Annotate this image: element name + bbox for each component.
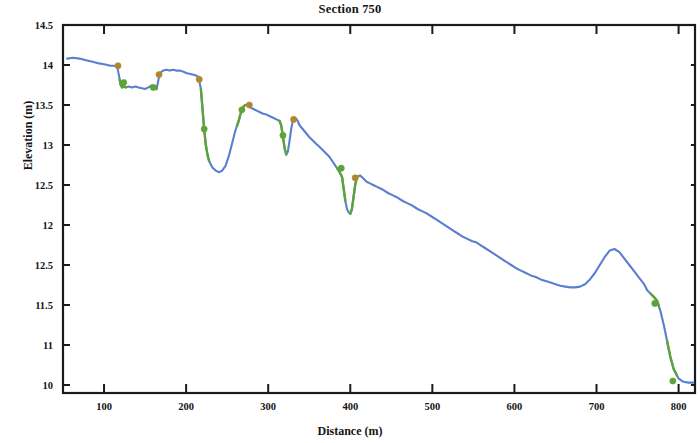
y-axis-ticks: 14.51413.51312.51212.511.51110 [35, 20, 695, 391]
svg-text:700: 700 [589, 401, 605, 412]
svg-text:600: 600 [507, 401, 523, 412]
svg-text:12.5: 12.5 [35, 180, 53, 191]
green-segment-markers [120, 79, 677, 375]
svg-text:13: 13 [43, 140, 54, 151]
chart-title: Section 750 [0, 2, 700, 17]
svg-text:200: 200 [178, 401, 194, 412]
svg-text:14: 14 [43, 60, 54, 71]
x-axis-label: Distance (m) [0, 424, 700, 439]
svg-text:300: 300 [260, 401, 276, 412]
chart-figure: Section 750 Elevation (m) 14.51413.51312… [0, 0, 700, 443]
svg-text:14.5: 14.5 [35, 20, 53, 31]
y-axis-label: Elevation (m) [21, 56, 36, 216]
svg-text:10: 10 [43, 380, 54, 391]
data-series-line [67, 58, 693, 383]
svg-text:100: 100 [96, 401, 112, 412]
svg-text:11: 11 [43, 340, 53, 351]
plot-area: 14.51413.51312.51212.511.51110 100200300… [0, 0, 700, 443]
svg-text:400: 400 [342, 401, 358, 412]
svg-text:12: 12 [43, 220, 54, 231]
svg-text:12.5: 12.5 [35, 260, 53, 271]
svg-text:500: 500 [424, 401, 440, 412]
svg-text:11.5: 11.5 [35, 300, 53, 311]
svg-text:13.5: 13.5 [35, 100, 53, 111]
x-axis-ticks: 100200300400500600700800 [96, 25, 686, 412]
svg-text:800: 800 [671, 401, 687, 412]
peak-markers [115, 63, 676, 384]
